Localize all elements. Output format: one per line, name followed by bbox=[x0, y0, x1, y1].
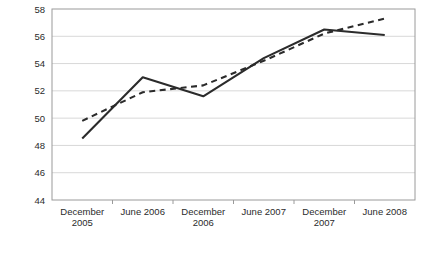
y-axis-tick-label: 48 bbox=[34, 140, 45, 151]
y-axis-tick-label: 46 bbox=[34, 167, 45, 178]
chart-svg: 4446485052545658 December2005June 2006De… bbox=[0, 0, 422, 253]
y-axis-tick-label: 50 bbox=[34, 113, 45, 124]
y-axis-tick-label: 52 bbox=[34, 85, 45, 96]
x-axis-tick-label: June 2006 bbox=[121, 206, 165, 217]
x-axis-tick-label: June 2008 bbox=[363, 206, 407, 217]
y-axis-tick-label: 58 bbox=[34, 4, 45, 15]
y-axis-tick-label: 44 bbox=[34, 195, 45, 206]
plot-area-background bbox=[52, 9, 415, 200]
x-axis-tick-label: June 2007 bbox=[242, 206, 286, 217]
y-axis-tick-label: 56 bbox=[34, 31, 45, 42]
line-chart: 4446485052545658 December2005June 2006De… bbox=[0, 0, 422, 253]
y-axis-tick-label: 54 bbox=[34, 58, 45, 69]
